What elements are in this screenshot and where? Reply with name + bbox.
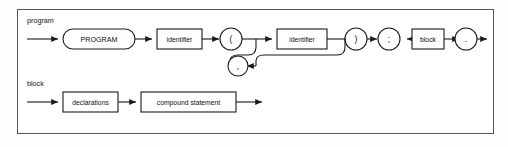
program-tail-layer	[0, 0, 508, 147]
